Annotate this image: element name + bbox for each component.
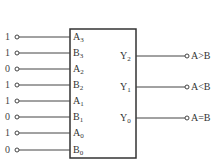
input-value-b2: 1 (5, 80, 10, 90)
input-value-a2: 0 (5, 64, 10, 74)
input-wires (15, 35, 70, 152)
pin-label-b2: B2 (73, 80, 83, 93)
pin-label-b0: B0 (73, 145, 83, 158)
pin-label-a1: A1 (73, 96, 84, 109)
input-value-b0: 0 (5, 145, 10, 155)
input-value-b3: 1 (5, 48, 10, 58)
output-label-greater: A>B (191, 51, 211, 61)
input-value-a1: 1 (5, 96, 10, 106)
pin-label-y2: Y2 (120, 51, 131, 64)
pin-label-y0: Y0 (120, 113, 131, 126)
pin-label-a0: A0 (73, 128, 84, 141)
input-value-a0: 1 (5, 128, 10, 138)
comparator-diagram (0, 0, 221, 168)
pin-label-a3: A3 (73, 32, 84, 45)
pin-label-a2: A2 (73, 64, 84, 77)
output-wires (136, 54, 189, 120)
output-label-less: A<B (191, 82, 211, 92)
input-value-b1: 0 (5, 112, 10, 122)
pin-label-b1: B1 (73, 112, 83, 125)
output-label-equal: A=B (191, 113, 211, 123)
pin-label-y1: Y1 (120, 82, 131, 95)
input-value-a3: 1 (5, 32, 10, 42)
pin-label-b3: B3 (73, 48, 83, 61)
